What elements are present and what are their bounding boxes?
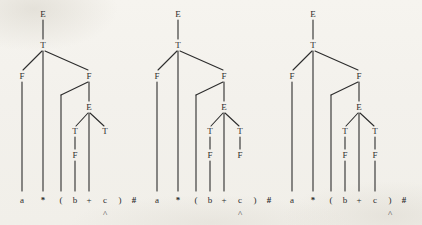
node-F-inner-right: F — [237, 151, 242, 160]
terminal-plus: + — [86, 196, 91, 205]
edge-E-to-T-right — [360, 113, 374, 126]
parse-tree-stage-3: ETFFETTFFa*(b+c)#^ — [270, 0, 410, 225]
edge-T-to-F-left — [158, 51, 177, 70]
edge-F-right-to-lparen — [331, 82, 358, 95]
node-T-inner-right: T — [372, 127, 378, 136]
terminal-a: a — [155, 196, 159, 205]
lookahead-caret: ^ — [103, 210, 107, 219]
edge-F-right-to-lparen — [196, 82, 223, 95]
terminal-lparen: ( — [60, 196, 63, 205]
edge-T-to-F-left — [293, 51, 312, 70]
edge-F-right-to-lparen — [61, 82, 88, 95]
node-E-inner: E — [86, 103, 92, 112]
node-T-under-root: T — [310, 41, 316, 50]
node-T-under-root: T — [175, 41, 181, 50]
terminal-rparen: ) — [254, 196, 257, 205]
node-F-left: F — [289, 72, 294, 81]
terminal-a: a — [290, 196, 294, 205]
terminal-star: * — [311, 196, 316, 205]
lookahead-caret: ^ — [238, 210, 242, 219]
lookahead-caret: ^ — [388, 210, 392, 219]
edge-E-to-T-left — [211, 113, 223, 126]
terminal-lparen: ( — [195, 196, 198, 205]
node-F-right: F — [221, 72, 226, 81]
terminal-rparen: ) — [119, 196, 122, 205]
node-F-left: F — [19, 72, 24, 81]
node-T-inner-left: T — [207, 127, 213, 136]
edge-E-to-T-right — [225, 113, 239, 126]
node-T-under-root: T — [40, 41, 46, 50]
terminal-b: b — [343, 196, 348, 205]
node-F-inner-left: F — [207, 151, 212, 160]
terminal-a: a — [20, 196, 24, 205]
node-E-inner: E — [356, 103, 362, 112]
edge-T-to-F-right — [315, 51, 358, 70]
terminal-end: # — [402, 196, 407, 205]
terminal-c: c — [103, 196, 107, 205]
node-E-inner: E — [221, 103, 227, 112]
terminal-c: c — [373, 196, 377, 205]
node-T-inner-left: T — [72, 127, 78, 136]
parse-tree-stage-2: ETFFETTFFa*(b+c)#^ — [135, 0, 275, 225]
node-F-inner-left: F — [342, 151, 347, 160]
terminal-b: b — [73, 196, 78, 205]
node-F-left: F — [154, 72, 159, 81]
terminal-rparen: ) — [389, 196, 392, 205]
node-root-E: E — [40, 10, 46, 19]
terminal-plus: + — [221, 196, 226, 205]
parse-tree-figure: ETFFETTFa*(b+c)#^ETFFETTFFa*(b+c)#^ETFFE… — [0, 0, 422, 225]
node-F-right: F — [356, 72, 361, 81]
tree-edges — [270, 0, 410, 225]
tree-edges — [135, 0, 275, 225]
edge-E-to-T-right — [90, 113, 104, 126]
tree-edges — [0, 0, 140, 225]
node-T-inner-right: T — [237, 127, 243, 136]
edge-T-to-F-right — [180, 51, 223, 70]
edge-T-to-F-left — [23, 51, 42, 70]
node-F-inner-right: F — [372, 151, 377, 160]
terminal-plus: + — [356, 196, 361, 205]
node-root-E: E — [175, 10, 181, 19]
node-F-inner-left: F — [72, 151, 77, 160]
edge-E-to-T-left — [346, 113, 358, 126]
terminal-c: c — [238, 196, 242, 205]
node-T-inner-right: T — [102, 127, 108, 136]
terminal-star: * — [176, 196, 181, 205]
edge-T-to-F-right — [45, 51, 88, 70]
node-F-right: F — [86, 72, 91, 81]
parse-tree-stage-1: ETFFETTFa*(b+c)#^ — [0, 0, 140, 225]
node-T-inner-left: T — [342, 127, 348, 136]
terminal-b: b — [208, 196, 213, 205]
terminal-star: * — [41, 196, 46, 205]
edge-E-to-T-left — [76, 113, 88, 126]
node-root-E: E — [310, 10, 316, 19]
terminal-lparen: ( — [330, 196, 333, 205]
